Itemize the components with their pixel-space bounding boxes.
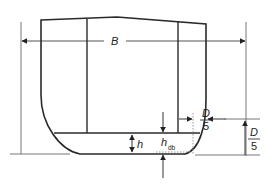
d5-bilge-denominator: 5 — [251, 140, 257, 152]
hdb-subscript: db — [168, 144, 176, 151]
ship-cross-section-diagram: B h h db D 5 D 5 — [0, 0, 267, 184]
d5-side-numerator: D — [202, 107, 210, 119]
h-label: h — [137, 138, 143, 150]
hdb-label: h — [161, 136, 167, 148]
d5-bilge-numerator: D — [250, 126, 258, 138]
breadth-label: B — [111, 35, 118, 47]
d5-side-denominator: 5 — [203, 120, 209, 132]
